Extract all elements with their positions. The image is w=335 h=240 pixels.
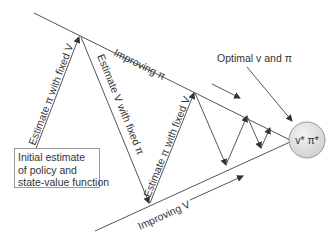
optimal-pointer-line bbox=[247, 67, 292, 121]
improving-pi-arrow bbox=[212, 84, 240, 98]
diagram-canvas: v* π* Improving π Improving V Estimate π… bbox=[0, 0, 335, 240]
estimate-pi-label-2: Estimate π with fixed V bbox=[141, 94, 192, 198]
improving-v-arrow bbox=[190, 176, 243, 200]
initial-box-line-2: of policy and bbox=[18, 164, 99, 177]
value-boundary-line bbox=[95, 142, 290, 231]
optimal-label: Optimal v and π bbox=[217, 52, 292, 64]
initial-box-line-3: state-value function bbox=[18, 176, 99, 189]
initial-estimate-box: Initial estimate of policy and state-val… bbox=[14, 148, 100, 188]
zigzag-arrow-4 bbox=[195, 93, 226, 165]
improving-v-label: Improving V bbox=[136, 198, 192, 232]
improving-pi-label: Improving π bbox=[112, 46, 168, 82]
optimum-node-label: v* π* bbox=[295, 134, 319, 146]
zigzag-arrow-6 bbox=[247, 116, 261, 148]
zigzag-arrow-5 bbox=[226, 116, 247, 165]
estimate-pi-label-1: Estimate π with fixed V bbox=[26, 42, 76, 147]
initial-box-line-1: Initial estimate bbox=[18, 151, 99, 164]
zigzag-arrow-7 bbox=[261, 128, 270, 148]
